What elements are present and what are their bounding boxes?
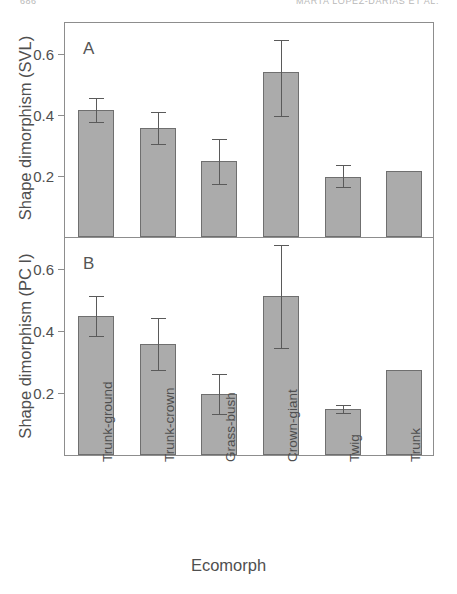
error-bar-cap-upper (212, 139, 227, 140)
bar-trunk (386, 171, 422, 237)
panel-b-y-axis-title: Shape dimorphism (PC I) (16, 236, 35, 456)
error-bar-cap-upper (336, 405, 351, 406)
error-bar-cap-lower (151, 144, 166, 145)
error-bar-line (343, 405, 344, 412)
x-axis-tick-label: Trunk (408, 428, 423, 462)
error-bar-cap-upper (212, 374, 227, 375)
error-bar-cap-lower (274, 116, 289, 117)
x-axis-title: Ecomorph (0, 556, 457, 575)
error-bar-line (219, 374, 220, 414)
y-axis-tick (58, 176, 65, 177)
y-axis-tick-label: 0.2 (33, 385, 54, 402)
x-axis-tick-label: Grass-bush (223, 392, 238, 462)
panel-b: B 0.20.40.6 (64, 237, 434, 456)
y-axis-tick-label: 0.6 (33, 45, 54, 62)
error-bar-line (219, 139, 220, 185)
x-axis-tick-label: Trunk-ground (100, 381, 115, 462)
panel-a: A 0.20.40.6 (64, 22, 434, 238)
error-bar-line (281, 245, 282, 348)
y-axis-tick (58, 331, 65, 332)
y-axis-tick-label: 0.4 (33, 106, 54, 123)
x-axis-tick-label: Twig (347, 434, 362, 462)
y-axis-tick (58, 393, 65, 394)
bar-trunk-ground (78, 110, 114, 237)
error-bar-cap-upper (89, 296, 104, 297)
error-bar-line (281, 40, 282, 116)
error-bar-cap-lower (336, 187, 351, 188)
panel-b-plot-area: 0.20.40.6 (65, 238, 433, 455)
y-axis-tick-label: 0.6 (33, 261, 54, 278)
error-bar-cap-lower (89, 122, 104, 123)
y-axis-tick (58, 269, 65, 270)
panel-a-y-axis-title: Shape dimorphism (SVL) (16, 18, 35, 238)
y-axis-tick-label: 0.2 (33, 167, 54, 184)
error-bar-cap-lower (89, 336, 104, 337)
error-bar-line (96, 98, 97, 122)
panel-a-plot-area: 0.20.40.6 (65, 23, 433, 237)
x-axis-tick-label: Crown-giant (285, 389, 300, 462)
error-bar-cap-upper (274, 245, 289, 246)
y-axis-tick (58, 115, 65, 116)
error-bar-cap-upper (151, 318, 166, 319)
error-bar-cap-upper (89, 98, 104, 99)
error-bar-line (96, 296, 97, 336)
error-bar-cap-upper (151, 112, 166, 113)
error-bar-cap-lower (336, 413, 351, 414)
error-bar-cap-lower (212, 184, 227, 185)
error-bar-cap-upper (336, 165, 351, 166)
x-axis-tick-label: Trunk-crown (162, 387, 177, 462)
error-bar-cap-lower (151, 370, 166, 371)
error-bar-cap-upper (274, 40, 289, 41)
y-axis-tick-label: 0.4 (33, 323, 54, 340)
figure-bar-chart: A 0.20.40.6 Shape dimorphism (SVL) B 0.2… (0, 0, 457, 594)
error-bar-line (158, 112, 159, 144)
error-bar-line (343, 165, 344, 187)
y-axis-tick (58, 54, 65, 55)
error-bar-line (158, 318, 159, 371)
error-bar-cap-lower (274, 348, 289, 349)
